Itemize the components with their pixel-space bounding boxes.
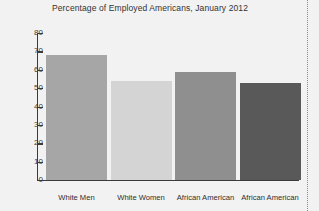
y-tick-label: 0 [21,176,43,184]
bar-chart-figure: Percentage of Employed Americans, Januar… [0,0,319,211]
x-axis-line [37,180,299,181]
y-tick-mark [38,107,43,108]
right-dotted-rule [307,0,308,211]
bar [175,72,236,180]
category-label: African American [232,193,309,202]
plot-area: 01020304050607080 White MenWhite WomenAf… [0,0,319,211]
y-tick-20: 20 [0,143,43,144]
y-tick-80: 80 [0,33,43,34]
y-tick-40: 40 [0,107,43,108]
y-tick-mark [38,70,43,71]
y-tick-mark [38,88,43,89]
y-tick-mark [38,33,43,34]
y-tick-50: 50 [0,88,43,89]
y-tick-mark [38,51,43,52]
y-tick-30: 30 [0,125,43,126]
y-tick-70: 70 [0,51,43,52]
y-tick-10: 10 [0,162,43,163]
y-tick-mark [38,143,43,144]
bar [240,83,301,180]
y-tick-mark [38,125,43,126]
y-tick-0: 0 [0,180,43,181]
y-tick-mark [38,162,43,163]
bar [111,81,172,180]
chart-screenshot: Percentage of Employed Americans, Januar… [0,0,319,211]
bar [46,55,107,180]
y-tick-60: 60 [0,70,43,71]
